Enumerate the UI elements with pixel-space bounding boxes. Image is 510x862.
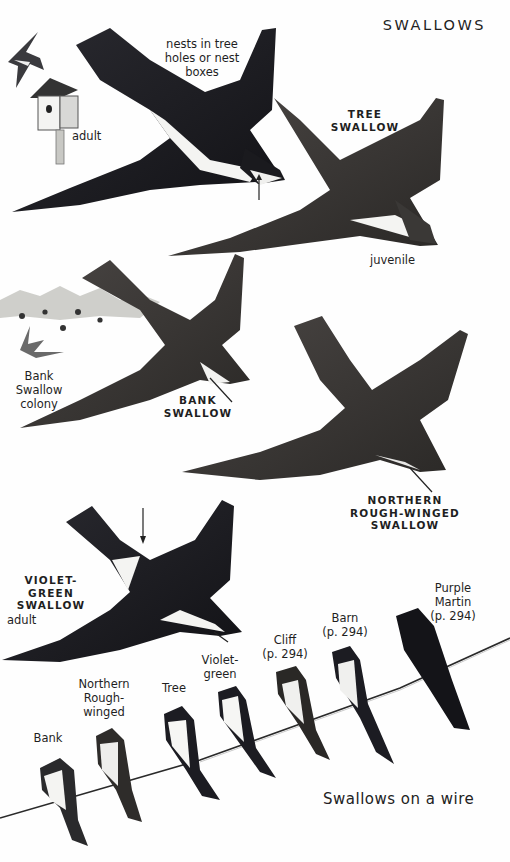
wire-label-line: Northern — [72, 678, 136, 692]
wire-label-line: (p. 294) — [258, 648, 312, 662]
wire-label-rough-winged: Northern Rough- winged — [72, 678, 136, 719]
tree-swallow-name: TREE SWALLOW — [325, 108, 405, 133]
species-name-line: SWALLOW — [4, 599, 98, 612]
violet-green-adult-label: adult — [7, 614, 36, 628]
habitat-note-line: nests in tree — [157, 38, 247, 52]
tree-swallow-juvenile-label: juvenile — [370, 254, 415, 268]
colony-label-line: colony — [0, 398, 78, 412]
bank-swallow-name: BANK SWALLOW — [160, 394, 236, 419]
species-name-line: SWALLOW — [325, 121, 405, 134]
colony-label-line: Bank Swallow — [0, 370, 78, 398]
species-name-line: BANK — [160, 394, 236, 407]
wire-label-line: Bank — [28, 732, 68, 746]
wire-label-line: (p. 294) — [318, 626, 372, 640]
field-guide-page: SWALLOWS nests in tree holes or nest box… — [0, 0, 510, 862]
bank-colony-label: Bank Swallow colony — [0, 370, 78, 411]
wire-label-line: Cliff — [258, 634, 312, 648]
wire-label-line: Tree — [156, 682, 192, 696]
nest-box-vignette — [8, 32, 78, 164]
tree-swallow-habitat-note: nests in tree holes or nest boxes — [157, 38, 247, 79]
wire-label-violet-green: Violet- green — [194, 654, 246, 682]
species-name-line: NORTHERN — [345, 494, 465, 507]
violet-green-swallow-name: VIOLET-GREEN SWALLOW — [4, 574, 98, 612]
species-name-line: TREE — [325, 108, 405, 121]
rough-winged-swallow-name: NORTHERN ROUGH-WINGED SWALLOW — [345, 494, 465, 532]
species-name-line: SWALLOW — [160, 407, 236, 420]
wire-label-line: Martin — [426, 596, 480, 610]
tree-swallow-adult-label: adult — [72, 130, 101, 144]
species-name-line: SWALLOW — [345, 519, 465, 532]
wire-label-line: (p. 294) — [426, 610, 480, 624]
wire-label-cliff: Cliff (p. 294) — [258, 634, 312, 662]
wire-label-line: winged — [72, 706, 136, 720]
species-name-line: ROUGH-WINGED — [345, 507, 465, 520]
wire-label-line: Violet- — [194, 654, 246, 668]
wire-label-tree: Tree — [156, 682, 192, 696]
wire-label-line: Purple — [426, 582, 480, 596]
page-title: SWALLOWS — [383, 17, 486, 33]
wire-label-bank: Bank — [28, 732, 68, 746]
wire-label-barn: Barn (p. 294) — [318, 612, 372, 640]
wire-label-line: green — [194, 668, 246, 682]
wire-caption: Swallows on a wire — [323, 790, 474, 808]
wire-label-purple-martin: Purple Martin (p. 294) — [426, 582, 480, 623]
species-name-line: VIOLET-GREEN — [4, 574, 98, 599]
wire-label-line: Rough- — [72, 692, 136, 706]
habitat-note-line: holes or nest — [157, 52, 247, 66]
habitat-note-line: boxes — [157, 66, 247, 80]
wire-label-line: Barn — [318, 612, 372, 626]
